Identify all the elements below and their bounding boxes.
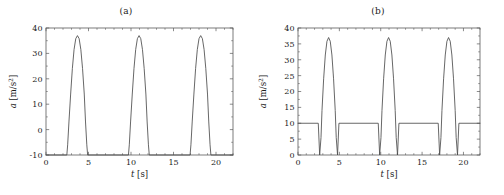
y-tick-label: -10 bbox=[30, 151, 43, 160]
y-tick-label: 40 bbox=[32, 24, 42, 33]
x-tick-label: 10 bbox=[126, 158, 136, 167]
panel-a: (a) 05101520-10010203040t [s]a [m/s2] bbox=[0, 0, 252, 195]
y-tick-label: 35 bbox=[284, 40, 294, 49]
data-curve bbox=[298, 38, 480, 155]
figure-container: (a) 05101520-10010203040t [s]a [m/s2] (b… bbox=[0, 0, 504, 195]
panel-b-plot: 051015200510152025303540t [s]a [m/s2] bbox=[252, 0, 504, 195]
panel-b: (b) 051015200510152025303540t [s]a [m/s2… bbox=[252, 0, 504, 195]
y-axis-title: a [m/s2] bbox=[257, 75, 268, 109]
x-tick-label: 5 bbox=[86, 158, 91, 167]
x-tick-label: 5 bbox=[337, 158, 342, 167]
x-tick-label: 20 bbox=[458, 158, 468, 167]
x-tick-label: 10 bbox=[376, 158, 386, 167]
x-tick-label: 0 bbox=[43, 158, 48, 167]
y-tick-label: 10 bbox=[32, 100, 42, 109]
x-tick-label: 0 bbox=[295, 158, 300, 167]
x-tick-label: 15 bbox=[417, 158, 427, 167]
y-tick-label: 30 bbox=[32, 49, 42, 58]
panel-a-plot: 05101520-10010203040t [s]a [m/s2] bbox=[0, 0, 252, 195]
x-tick-label: 15 bbox=[168, 158, 178, 167]
x-tick-label: 20 bbox=[211, 158, 221, 167]
data-curve bbox=[46, 36, 233, 155]
y-tick-label: 30 bbox=[284, 56, 294, 65]
y-tick-label: 0 bbox=[289, 151, 294, 160]
x-axis-title: t [s] bbox=[380, 169, 397, 179]
y-axis-title: a [m/s2] bbox=[7, 75, 18, 109]
y-tick-label: 15 bbox=[284, 103, 294, 112]
y-tick-label: 10 bbox=[284, 119, 294, 128]
x-axis-title: t [s] bbox=[131, 169, 148, 179]
y-tick-label: 20 bbox=[284, 87, 294, 96]
y-tick-label: 20 bbox=[32, 75, 42, 84]
y-tick-label: 25 bbox=[284, 72, 294, 81]
y-tick-label: 5 bbox=[289, 135, 294, 144]
y-tick-label: 0 bbox=[37, 126, 42, 135]
y-tick-label: 40 bbox=[284, 24, 294, 33]
